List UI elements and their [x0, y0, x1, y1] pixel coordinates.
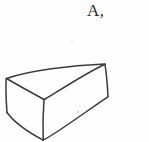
figure-label: A, — [87, 1, 105, 20]
top-diagonal-edge — [45, 65, 105, 100]
faint-speck-upper-icon — [71, 41, 73, 43]
bottom-right-edge — [43, 97, 108, 140]
front-vertical-edge — [43, 100, 44, 141]
right-vertical-edge — [105, 65, 108, 97]
top-left-edge — [7, 79, 45, 100]
wedge-block-drawing — [0, 0, 149, 142]
left-vertical-edge — [6, 79, 7, 113]
faint-speck-lower-icon — [77, 111, 79, 113]
bottom-left-edge — [7, 113, 43, 141]
